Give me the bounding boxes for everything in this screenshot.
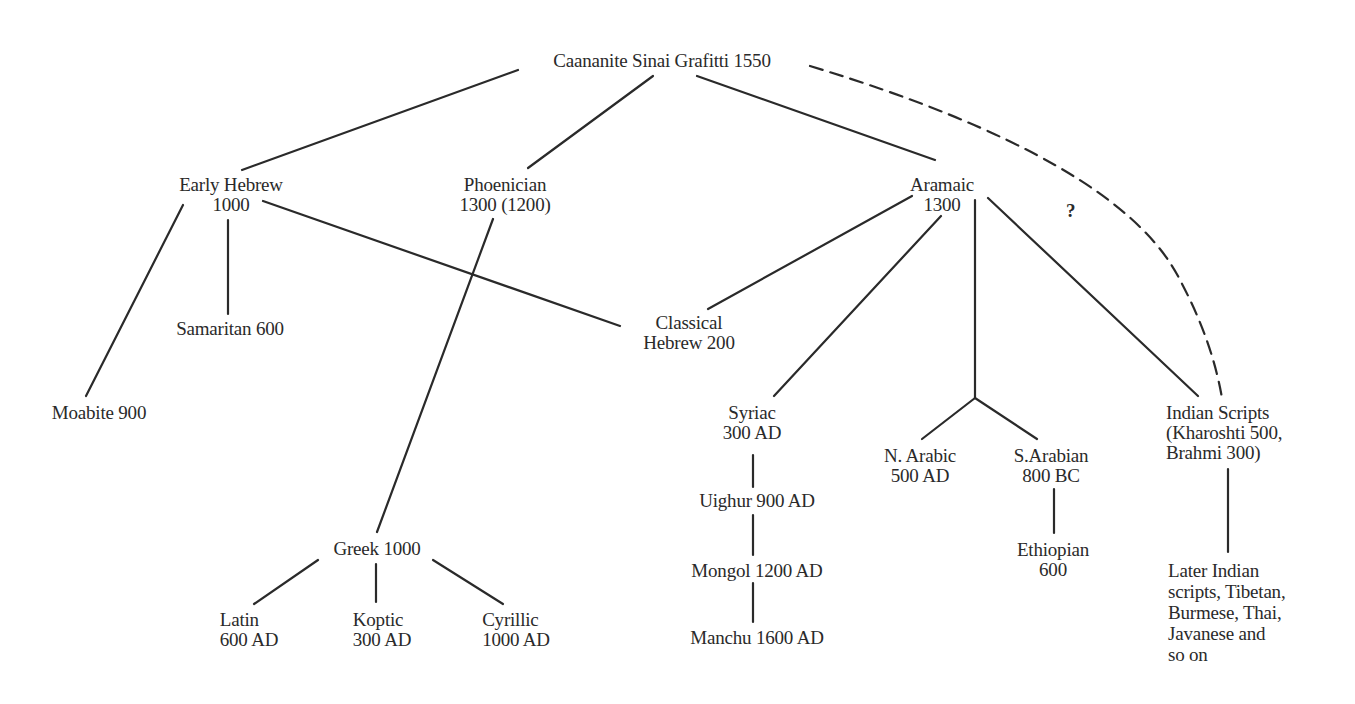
node-label: Early Hebrew (179, 175, 283, 195)
node-label: Latin (220, 610, 278, 630)
node-date: Hebrew 200 (643, 333, 734, 353)
edge-greek-cyrillic (433, 560, 503, 604)
node-early-hebrew: Early Hebrew 1000 (179, 175, 283, 215)
node-label: Syriac (723, 403, 781, 423)
node-label: Phoenician (459, 175, 550, 195)
node-date: 1000 (179, 195, 283, 215)
node-label: Uighur 900 AD (699, 491, 815, 511)
node-date: 1300 (910, 195, 974, 215)
node-label: so on (1168, 644, 1285, 665)
node-phoenician: Phoenician 1300 (1200) (459, 175, 550, 215)
node-manchu: Manchu 1600 AD (690, 628, 823, 648)
node-mongol: Mongol 1200 AD (691, 561, 822, 581)
node-syriac: Syriac 300 AD (723, 403, 781, 443)
node-indian-scripts: Indian Scripts (Kharoshti 500, Brahmi 30… (1166, 403, 1282, 463)
node-date: 600 AD (220, 630, 278, 650)
node-koptic: Koptic 300 AD (353, 610, 411, 650)
edge-early-hebrew-moabite (86, 205, 183, 396)
node-label: S.Arabian (1014, 446, 1089, 466)
node-label: Koptic (353, 610, 411, 630)
node-greek: Greek 1000 (333, 539, 420, 559)
edge-aramaic-syriac (774, 216, 941, 396)
node-label: Manchu 1600 AD (690, 628, 823, 648)
edge-aramaic-indian (988, 198, 1198, 396)
node-cyrillic: Cyrillic 1000 AD (482, 610, 550, 650)
node-detail: Brahmi 300) (1166, 443, 1282, 463)
edge-phoenician-greek (377, 219, 493, 532)
alphabet-tree-diagram: ? Caananite Sinai Grafitti 1550 Early He… (0, 0, 1355, 704)
node-moabite: Moabite 900 (52, 403, 146, 423)
node-label: Aramaic (910, 175, 974, 195)
node-label: Burmese, Thai, (1168, 602, 1285, 623)
node-label: N. Arabic (884, 446, 956, 466)
node-aramaic: Aramaic 1300 (910, 175, 974, 215)
node-caananite-sinai: Caananite Sinai Grafitti 1550 (553, 51, 770, 71)
node-label: Cyrillic (482, 610, 550, 630)
node-uighur: Uighur 900 AD (699, 491, 815, 511)
node-label: Moabite 900 (52, 403, 146, 423)
node-date: 500 AD (884, 466, 956, 486)
node-label: Later Indian (1168, 560, 1285, 581)
node-detail: (Kharoshti 500, (1166, 423, 1282, 443)
edge-fork-n-arabic (922, 398, 975, 439)
node-date: 1300 (1200) (459, 195, 550, 215)
node-label: Javanese and (1168, 623, 1285, 644)
node-latin: Latin 600 AD (220, 610, 278, 650)
edge-greek-latin (254, 560, 318, 604)
edge-root-phoenician (528, 76, 653, 168)
edge-fork-s-arabian (975, 398, 1037, 439)
uncertain-link-marker: ? (1066, 200, 1076, 222)
node-classical-hebrew: Classical Hebrew 200 (643, 313, 734, 353)
node-date: 300 AD (723, 423, 781, 443)
node-date: 1000 AD (482, 630, 550, 650)
node-label: scripts, Tibetan, (1168, 581, 1285, 602)
node-label: Classical (643, 313, 734, 333)
node-n-arabic: N. Arabic 500 AD (884, 446, 956, 486)
node-samaritan: Samaritan 600 (176, 319, 284, 339)
node-label: Indian Scripts (1166, 403, 1282, 423)
node-label: Samaritan 600 (176, 319, 284, 339)
node-date: 300 AD (353, 630, 411, 650)
edge-root-early-hebrew (242, 70, 518, 170)
node-s-arabian: S.Arabian 800 BC (1014, 446, 1089, 486)
node-label: Mongol 1200 AD (691, 561, 822, 581)
node-label: Ethiopian (1017, 540, 1089, 560)
edge-aramaic-classical (708, 196, 912, 309)
node-label: Caananite Sinai Grafitti 1550 (553, 51, 770, 71)
node-date: 600 (1017, 560, 1089, 580)
node-later-indian: Later Indian scripts, Tibetan, Burmese, … (1168, 560, 1285, 665)
edge-root-aramaic (697, 76, 935, 160)
node-label: Greek 1000 (333, 539, 420, 559)
node-ethiopian: Ethiopian 600 (1017, 540, 1089, 580)
edge-root-indian-dashed (810, 66, 1222, 398)
node-date: 800 BC (1014, 466, 1089, 486)
edge-early-hebrew-classical (263, 201, 620, 326)
